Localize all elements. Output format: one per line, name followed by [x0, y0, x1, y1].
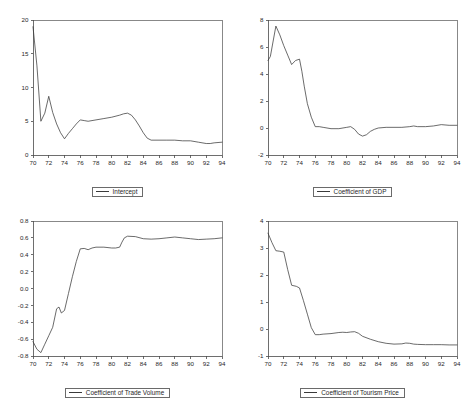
- y-tick-label: 0: [260, 325, 264, 332]
- series-line-coefficient-of-trade-volume: [33, 236, 222, 352]
- x-tick-label: 70: [30, 159, 37, 166]
- x-tick-label: 86: [156, 360, 163, 367]
- y-tick-label: 4: [260, 217, 264, 224]
- legend-line-swatch-icon: [96, 191, 109, 192]
- x-tick-label: 94: [219, 360, 226, 367]
- chart-panel-coefficient-of-gdp: -20246870727476788082848688909294 Coeffi…: [235, 0, 470, 201]
- x-tick-label: 78: [328, 159, 335, 166]
- x-tick-label: 78: [328, 360, 335, 367]
- y-tick-label: 6: [260, 43, 264, 50]
- x-tick-label: 80: [108, 360, 115, 367]
- y-tick-label: 2: [260, 271, 264, 278]
- x-tick-label: 76: [77, 360, 84, 367]
- chart-coefficient-of-tourism-price: -10123470727476788082848688909294: [235, 201, 470, 402]
- x-tick-label: 74: [61, 159, 68, 166]
- legend-label-coefficient-of-trade-volume: Coefficient of Trade Volume: [86, 390, 164, 396]
- legend-label-coefficient-of-gdp: Coefficient of GDP: [334, 189, 387, 195]
- x-tick-label: 80: [343, 159, 350, 166]
- y-tick-label: 5: [25, 117, 29, 124]
- x-tick-label: 86: [156, 159, 163, 166]
- x-tick-label: 84: [140, 159, 147, 166]
- plot-frame: [268, 20, 457, 155]
- legend-coefficient-of-tourism-price: Coefficient of Tourism Price: [235, 388, 470, 398]
- x-tick-label: 92: [203, 360, 210, 367]
- plot-frame: [268, 221, 457, 356]
- x-tick-label: 76: [312, 360, 319, 367]
- x-tick-label: 70: [30, 360, 37, 367]
- x-tick-label: 90: [187, 159, 194, 166]
- series-line-intercept: [33, 27, 222, 144]
- y-tick-label: 20: [22, 16, 29, 23]
- x-tick-label: 84: [375, 360, 382, 367]
- y-tick-label: 10: [22, 84, 29, 91]
- legend-coefficient-of-gdp: Coefficient of GDP: [235, 187, 470, 197]
- x-tick-label: 82: [359, 360, 366, 367]
- x-tick-label: 80: [108, 159, 115, 166]
- y-tick-label: -0.2: [18, 302, 29, 309]
- x-tick-label: 84: [140, 360, 147, 367]
- y-tick-label: 1: [260, 298, 264, 305]
- y-tick-label: 0.2: [20, 268, 29, 275]
- chart-coefficient-of-gdp: -20246870727476788082848688909294: [235, 0, 470, 201]
- x-tick-label: 78: [93, 159, 100, 166]
- x-tick-label: 84: [375, 159, 382, 166]
- x-tick-label: 86: [391, 159, 398, 166]
- x-tick-label: 76: [312, 159, 319, 166]
- y-tick-label: 3: [260, 244, 264, 251]
- legend-line-swatch-icon: [317, 191, 330, 192]
- x-tick-label: 94: [454, 360, 461, 367]
- x-tick-label: 90: [187, 360, 194, 367]
- x-tick-label: 82: [124, 159, 131, 166]
- x-tick-label: 72: [45, 159, 52, 166]
- chart-intercept: 0510152070727476788082848688909294: [0, 0, 235, 201]
- x-tick-label: 70: [265, 159, 272, 166]
- series-line-coefficient-of-tourism-price: [268, 233, 457, 345]
- x-tick-label: 74: [296, 360, 303, 367]
- chart-panel-intercept: 0510152070727476788082848688909294 Inter…: [0, 0, 235, 201]
- y-tick-label: 8: [260, 16, 264, 23]
- x-tick-label: 92: [438, 360, 445, 367]
- y-tick-label: 0.8: [20, 217, 29, 224]
- y-tick-label: -1: [258, 352, 264, 359]
- legend-line-swatch-icon: [69, 392, 82, 393]
- y-tick-label: 0: [260, 124, 264, 131]
- recursive-coefficients-figure: 0510152070727476788082848688909294 Inter…: [0, 0, 470, 402]
- chart-panel-coefficient-of-trade-volume: -0.8-0.6-0.4-0.20.00.20.40.60.8707274767…: [0, 201, 235, 402]
- x-tick-label: 70: [265, 360, 272, 367]
- x-tick-label: 88: [171, 360, 178, 367]
- x-tick-label: 78: [93, 360, 100, 367]
- x-tick-label: 94: [454, 159, 461, 166]
- series-line-coefficient-of-gdp: [268, 26, 457, 136]
- y-tick-label: 0.4: [20, 251, 29, 258]
- x-tick-label: 88: [406, 360, 413, 367]
- x-tick-label: 76: [77, 159, 84, 166]
- y-tick-label: -0.6: [18, 335, 29, 342]
- x-tick-label: 80: [343, 360, 350, 367]
- x-tick-label: 92: [438, 159, 445, 166]
- x-tick-label: 94: [219, 159, 226, 166]
- y-tick-label: -2: [258, 151, 264, 158]
- plot-frame: [33, 20, 222, 155]
- legend-label-intercept: Intercept: [113, 189, 138, 195]
- y-tick-label: 0.0: [20, 285, 29, 292]
- x-tick-label: 88: [171, 159, 178, 166]
- x-tick-label: 74: [61, 360, 68, 367]
- y-tick-label: 4: [260, 70, 264, 77]
- y-tick-label: 0.6: [20, 234, 29, 241]
- legend-label-coefficient-of-tourism-price: Coefficient of Tourism Price: [321, 390, 399, 396]
- y-tick-label: 15: [22, 50, 29, 57]
- chart-panel-coefficient-of-tourism-price: -10123470727476788082848688909294 Coeffi…: [235, 201, 470, 402]
- legend-coefficient-of-trade-volume: Coefficient of Trade Volume: [0, 388, 235, 398]
- x-tick-label: 72: [280, 360, 287, 367]
- plot-frame: [33, 221, 222, 356]
- x-tick-label: 86: [391, 360, 398, 367]
- chart-coefficient-of-trade-volume: -0.8-0.6-0.4-0.20.00.20.40.60.8707274767…: [0, 201, 235, 402]
- x-tick-label: 90: [422, 159, 429, 166]
- y-tick-label: -0.8: [18, 352, 29, 359]
- y-tick-label: -0.4: [18, 318, 29, 325]
- y-tick-label: 2: [260, 97, 264, 104]
- x-tick-label: 92: [203, 159, 210, 166]
- y-tick-label: 0: [25, 151, 29, 158]
- x-tick-label: 72: [280, 159, 287, 166]
- x-tick-label: 82: [124, 360, 131, 367]
